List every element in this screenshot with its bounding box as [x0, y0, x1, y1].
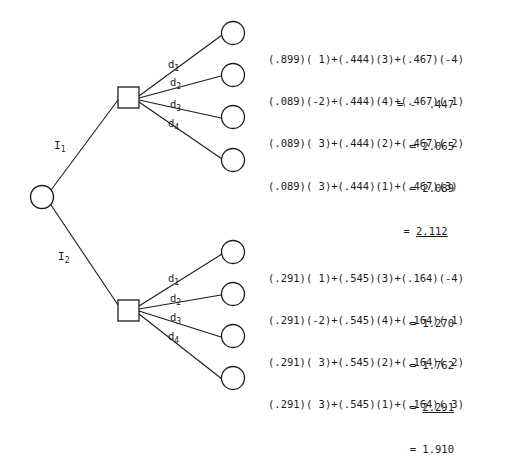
- outcome-node: [222, 241, 245, 264]
- outcome-node: [222, 325, 245, 348]
- outcome-node: [222, 367, 245, 390]
- decision-label-I2-d2: d2: [170, 292, 181, 307]
- decision-node-I1: [118, 87, 139, 108]
- decision-label-I1-d2: d2: [170, 76, 181, 91]
- root-chance-node: [31, 186, 54, 209]
- outcome-node: [222, 64, 245, 87]
- expected-value-equation: (.089)( 3)+(.444)(1)+(.467)(3) = 2.112: [268, 149, 458, 254]
- decision-label-I1-d1: d1: [168, 58, 179, 73]
- outcome-node: [222, 22, 245, 45]
- decision-label-I1-d4: d4: [168, 117, 179, 132]
- decision-node-I2: [118, 300, 139, 321]
- expected-value: 1.910: [422, 442, 454, 457]
- branch-label-I1: I1: [54, 139, 65, 154]
- expected-value-equation: (.291)( 3)+(.545)(1)+(.164)( 3) = 1.910: [268, 367, 464, 457]
- outcome-node: [222, 149, 245, 172]
- decision-label-I2-d3: d3: [170, 311, 181, 326]
- decision-label-I2-d1: d1: [168, 272, 179, 287]
- decision-label-I2-d4: d4: [168, 330, 179, 345]
- outcome-node: [222, 283, 245, 306]
- decision-label-I1-d3: d3: [170, 98, 181, 113]
- outcome-node: [222, 106, 245, 129]
- branch-label-I2: I2: [58, 250, 69, 265]
- expected-value-optimal: 2.112: [416, 224, 448, 239]
